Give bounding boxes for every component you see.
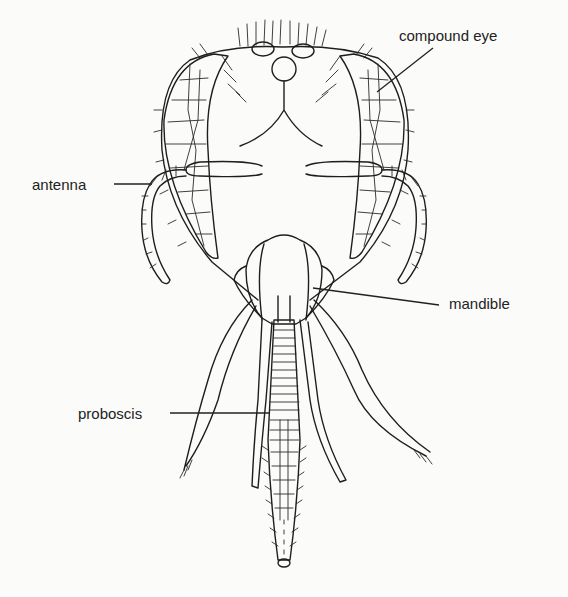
leader-mandible [313,288,439,305]
label-proboscis: proboscis [78,406,142,421]
label-antenna: antenna [32,177,86,192]
leader-lines [114,48,439,413]
maxillae [180,300,432,478]
label-mandible: mandible [449,296,510,311]
head-capsule [162,20,409,300]
compound-eye-right [340,54,414,258]
proboscis [262,320,306,567]
leader-compound-eye [377,48,433,92]
label-compound-eye: compound eye [399,28,497,43]
clypeus [234,235,334,324]
compound-eye-left [154,54,228,258]
antenna-left [142,162,262,284]
antenna-right [306,162,426,284]
